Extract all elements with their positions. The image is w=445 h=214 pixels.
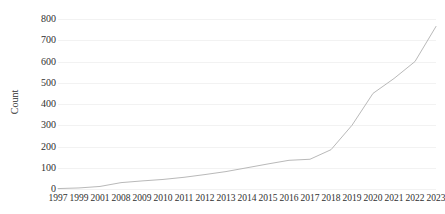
x-axis-tick-2014: 2014 xyxy=(238,192,257,204)
gridline-0 xyxy=(58,189,436,190)
x-axis-tick-2015: 2015 xyxy=(259,192,278,204)
x-axis-tick-2011: 2011 xyxy=(175,192,194,204)
x-axis-tick-2001: 2001 xyxy=(91,192,110,204)
x-axis-tick-2016: 2016 xyxy=(280,192,299,204)
x-axis-tick-2020: 2020 xyxy=(364,192,383,204)
y-axis-tick-400: 400 xyxy=(12,99,56,109)
x-axis-tick-labels: 1997199920012008200920102011201220132014… xyxy=(0,192,445,206)
plot-area xyxy=(58,19,436,189)
y-axis-tick-600: 600 xyxy=(12,57,56,67)
x-axis-tick-1999: 1999 xyxy=(70,192,89,204)
y-axis-tick-300: 300 xyxy=(12,120,56,130)
x-axis-tick-2010: 2010 xyxy=(154,192,173,204)
line-chart: Count 0100200300400500600700800 19971999… xyxy=(0,0,445,214)
y-axis-tick-200: 200 xyxy=(12,142,56,152)
x-axis-tick-2023: 2023 xyxy=(427,192,445,204)
x-axis-tick-1997: 1997 xyxy=(49,192,68,204)
x-axis-tick-2017: 2017 xyxy=(301,192,320,204)
x-axis-tick-2018: 2018 xyxy=(322,192,341,204)
x-axis-tick-2008: 2008 xyxy=(112,192,131,204)
y-axis-tick-500: 500 xyxy=(12,78,56,88)
y-axis-tick-100: 100 xyxy=(12,163,56,173)
series-line-count xyxy=(58,19,436,189)
x-axis-tick-2009: 2009 xyxy=(133,192,152,204)
x-axis-tick-2012: 2012 xyxy=(196,192,215,204)
x-axis-tick-2019: 2019 xyxy=(343,192,362,204)
x-axis-tick-2021: 2021 xyxy=(385,192,404,204)
x-axis-tick-2013: 2013 xyxy=(217,192,236,204)
y-axis-tick-labels: 0100200300400500600700800 xyxy=(0,0,56,214)
y-axis-tick-700: 700 xyxy=(12,35,56,45)
x-axis-tick-2022: 2022 xyxy=(406,192,425,204)
series-polyline xyxy=(58,26,436,188)
y-axis-tick-800: 800 xyxy=(12,14,56,24)
